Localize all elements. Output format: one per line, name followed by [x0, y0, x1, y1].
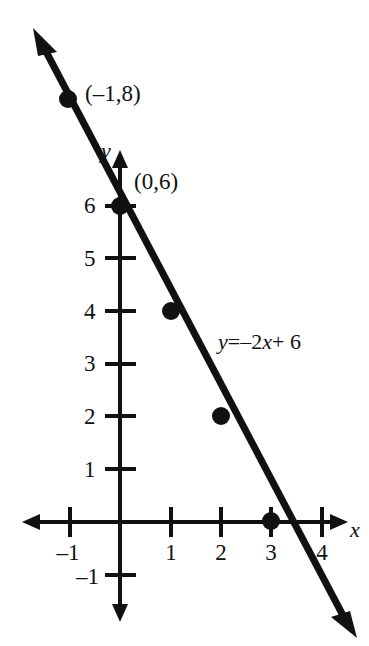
- point-label-0-6: (0,6): [134, 170, 178, 193]
- plotted-line: [33, 28, 357, 638]
- data-point-0-6: [111, 197, 129, 215]
- y-axis-name: y: [101, 140, 111, 162]
- y-axis-bottom-arrowhead: [112, 604, 128, 622]
- point-label-neg1-8: (–1,8): [85, 82, 141, 105]
- data-point-1-4: [162, 302, 180, 320]
- y-tick-label-4: 4: [84, 300, 96, 323]
- equation-constant: 6: [290, 329, 301, 354]
- x-tick-label-4: 4: [316, 541, 328, 564]
- line-upper-arrowhead: [33, 28, 57, 56]
- y-tick-label-6: 6: [84, 194, 96, 217]
- x-axis-left-arrowhead: [22, 514, 40, 530]
- equation-coefficient: –2: [240, 329, 262, 354]
- y-tick-label-neg1: –1: [76, 565, 99, 588]
- x-tick-label-1: 1: [165, 541, 177, 564]
- equation-equals: =: [228, 329, 240, 354]
- y-tick-label-5: 5: [84, 247, 96, 270]
- y-tick-label-3: 3: [84, 352, 96, 375]
- line-lower-arrowhead: [331, 611, 357, 638]
- equation-variable: x: [262, 329, 272, 354]
- x-axis-name: x: [350, 519, 360, 541]
- graph-figure: 6 5 4 3 2 1 –1 –1 1 2 3 4 y x (–1,8) (0,…: [0, 0, 369, 646]
- data-point-neg1-8: [59, 90, 77, 108]
- equation-label: y=–2x+ 6: [218, 331, 301, 353]
- data-point-2-2: [212, 407, 230, 425]
- coordinate-plane-svg: [0, 0, 369, 646]
- y-tick-label-1: 1: [84, 458, 96, 481]
- y-tick-label-2: 2: [84, 405, 96, 428]
- x-tick-label-3: 3: [265, 541, 277, 564]
- x-tick-label-neg1: –1: [57, 541, 80, 564]
- equation-lhs: y: [218, 329, 228, 354]
- y-axis-top-arrowhead: [112, 150, 128, 168]
- equation-plus: +: [272, 329, 284, 354]
- x-axis-right-arrowhead: [330, 514, 348, 530]
- data-point-3-0: [262, 512, 280, 530]
- y-axis: [112, 150, 128, 622]
- x-tick-label-2: 2: [215, 541, 227, 564]
